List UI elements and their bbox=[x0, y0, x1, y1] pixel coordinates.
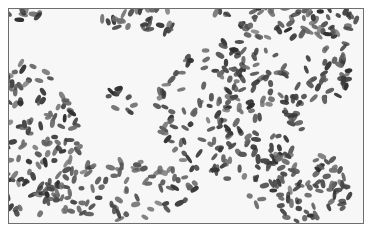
micrograph-frame bbox=[8, 8, 364, 224]
bacteria-micrograph bbox=[9, 9, 363, 223]
